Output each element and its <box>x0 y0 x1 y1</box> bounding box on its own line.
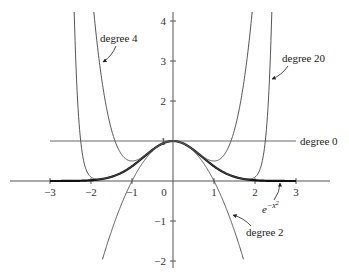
y-tick-label: 3 <box>161 55 167 67</box>
x-tick-label: 0 <box>161 186 167 198</box>
gaussian-arrow <box>274 183 280 200</box>
degree-20-label: degree 20 <box>282 52 326 64</box>
y-tick-label: 4 <box>161 15 167 27</box>
y-tick-label: 2 <box>161 95 167 107</box>
degree-0-label: degree 0 <box>300 135 338 147</box>
y-tick-label: −1 <box>154 215 166 227</box>
taylor-polynomials-chart: −3−2−10123−2−11234 degree 4 degree 20 de… <box>0 0 349 277</box>
degree-4-label: degree 4 <box>100 32 138 44</box>
degree-4-arrow <box>103 46 116 62</box>
degree-20-arrow <box>272 66 288 79</box>
x-tick-label: −2 <box>85 186 97 198</box>
degree-2-arrow <box>233 215 251 226</box>
x-tick-label: 3 <box>293 186 299 198</box>
annotations: degree 4 degree 20 degree 0 degree 2 e−x… <box>100 32 338 238</box>
y-tick-label: −2 <box>154 255 166 267</box>
x-tick-label: 2 <box>252 186 258 198</box>
x-tick-label: 1 <box>211 186 217 198</box>
x-tick-label: −1 <box>126 186 138 198</box>
x-tick-label: −3 <box>44 186 56 198</box>
gaussian-label: e−x2 <box>262 200 279 215</box>
degree-2-label: degree 2 <box>246 226 284 238</box>
svg-text:e−x2: e−x2 <box>262 200 279 215</box>
